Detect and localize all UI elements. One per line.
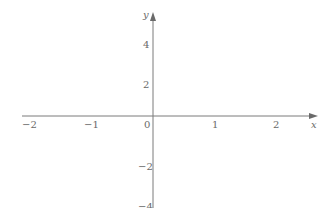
x-tick-label: −2 — [22, 120, 37, 130]
axes-svg — [0, 0, 332, 208]
y-tick-label: −2 — [138, 162, 153, 172]
x-tick-label: 1 — [212, 120, 218, 130]
y-tick-label: 4 — [143, 40, 149, 50]
y-tick-label: −4 — [138, 202, 153, 208]
y-axis-arrow-icon — [150, 12, 156, 21]
x-tick-label: −1 — [84, 120, 99, 130]
y-axis-label: y — [143, 10, 149, 20]
y-tick-label: 2 — [143, 80, 149, 90]
x-tick-label: 2 — [273, 120, 279, 130]
x-axis-label: x — [311, 120, 317, 130]
coordinate-plane: −2 −1 0 1 2 x y 4 2 −2 −4 — [0, 0, 332, 208]
origin-label: 0 — [144, 120, 150, 130]
